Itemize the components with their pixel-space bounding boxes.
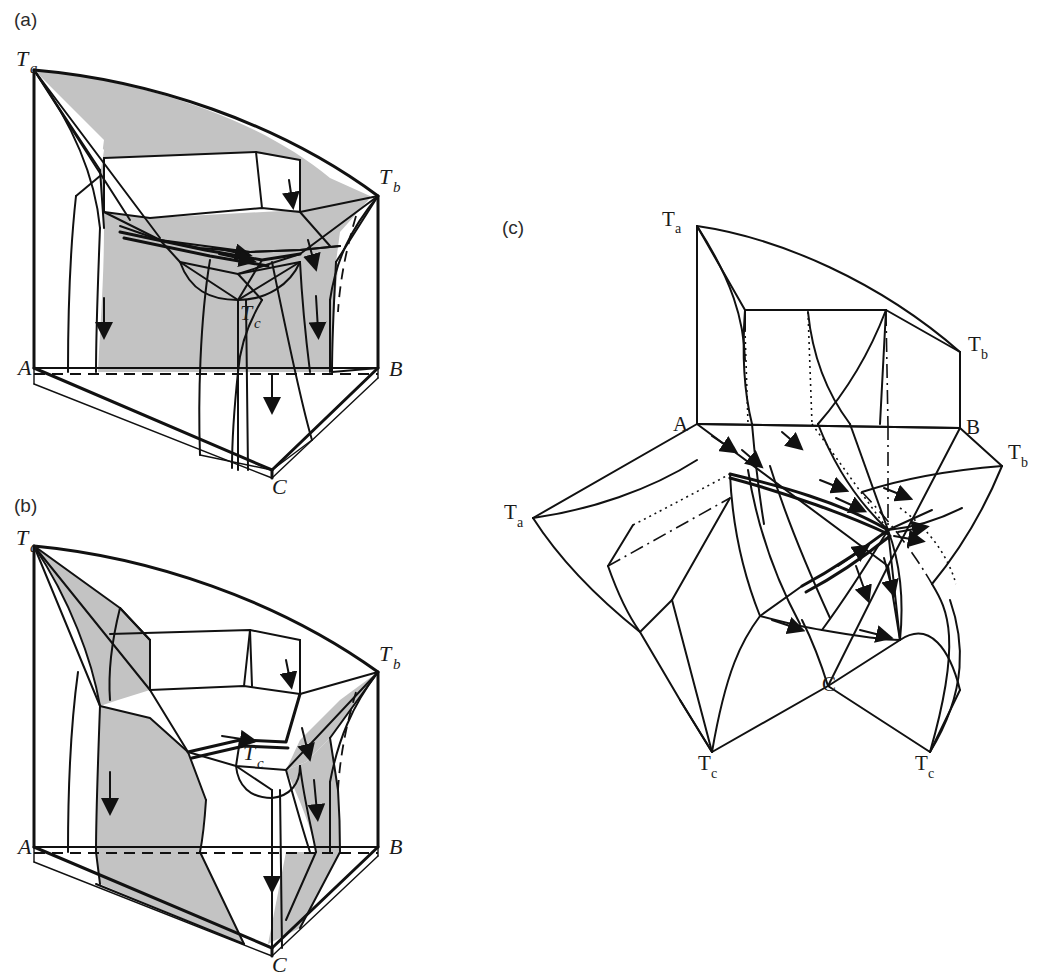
panel-b-shade-bottom-right bbox=[268, 852, 340, 944]
panel-c-label-Tb-top-sub: b bbox=[981, 347, 988, 362]
panel-c-wing-right bbox=[828, 428, 1002, 752]
panel-c-lower-wings bbox=[680, 616, 960, 752]
panel-c-label: (c) bbox=[502, 217, 524, 238]
panel-c-label-Ta-top-sub: a bbox=[675, 221, 682, 236]
panel-c-label-C: C bbox=[822, 672, 836, 696]
panel-b-label-Tc-base: T bbox=[243, 740, 257, 765]
panel-b-label-Ta-base: T bbox=[16, 525, 30, 550]
panel-c-label-Tc-right-base: T bbox=[915, 751, 928, 775]
panel-a-label-Tc-sub: c bbox=[254, 315, 261, 331]
panel-c-projection-lines bbox=[752, 424, 900, 686]
panel-a: (a) bbox=[14, 9, 402, 499]
panel-c: (c) bbox=[502, 207, 1028, 781]
panel-a-label-B: B bbox=[389, 356, 402, 381]
panel-b-label-Ta-sub: a bbox=[30, 539, 38, 555]
panel-b-shade-left-body bbox=[96, 706, 206, 852]
panel-b-label-C: C bbox=[272, 952, 287, 977]
panel-a-label-A: A bbox=[16, 355, 32, 380]
panel-a-label-Tc-base: T bbox=[240, 300, 254, 325]
panel-c-label-Tc-left-base: T bbox=[698, 751, 711, 775]
panel-b: (b) bbox=[14, 495, 402, 977]
panel-b-label-Tb-base: T bbox=[379, 641, 393, 666]
panel-c-label-Tb-top-base: T bbox=[968, 332, 981, 356]
panel-c-label-B: B bbox=[966, 415, 980, 439]
panel-c-label-Tc-left-sub: c bbox=[711, 766, 717, 781]
panel-a-label-Ta-base: T bbox=[16, 46, 30, 71]
panel-c-label-Ta-top-base: T bbox=[662, 207, 675, 231]
panel-c-upper-block bbox=[697, 226, 960, 428]
panel-b-label-B: B bbox=[389, 834, 402, 859]
figure-canvas: (a) bbox=[0, 0, 1052, 979]
panel-c-wing-left bbox=[533, 424, 828, 752]
panel-c-label-Tb-right-sub: b bbox=[1021, 455, 1028, 470]
panel-a-label-C: C bbox=[272, 474, 287, 499]
panel-c-label-Ta-left-base: T bbox=[504, 500, 517, 524]
panel-b-label-Tc-sub: c bbox=[257, 755, 264, 771]
panel-c-vertex-labels: T a T b A B T b T a C T c T c bbox=[504, 207, 1028, 781]
panel-b-label-Tb-sub: b bbox=[393, 656, 401, 672]
panel-a-label: (a) bbox=[14, 9, 37, 30]
panel-c-label-Ta-left-sub: a bbox=[517, 515, 524, 530]
panel-c-label-A: A bbox=[673, 412, 689, 436]
panel-a-label-Tb-base: T bbox=[379, 164, 393, 189]
panel-c-label-Tb-right-base: T bbox=[1008, 440, 1021, 464]
panel-a-label-Ta-sub: a bbox=[30, 60, 38, 76]
panel-c-label-Tc-right-sub: c bbox=[928, 766, 934, 781]
panel-b-label: (b) bbox=[14, 495, 37, 516]
panel-c-base-plane bbox=[697, 424, 960, 566]
phase-diagram-svg: (a) bbox=[0, 0, 1052, 979]
panel-b-label-A: A bbox=[16, 834, 32, 859]
panel-a-label-Tb-sub: b bbox=[393, 179, 401, 195]
